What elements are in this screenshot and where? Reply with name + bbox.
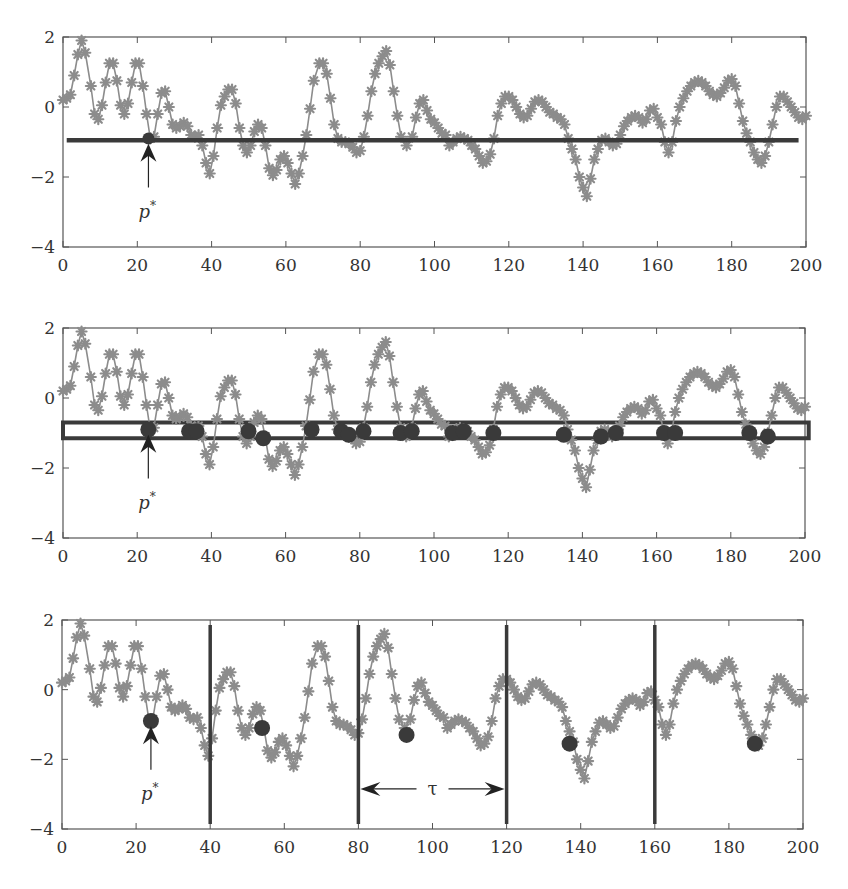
asterisk-marker — [329, 120, 339, 130]
asterisk-marker — [127, 78, 137, 88]
x-tick-label: 60 — [275, 546, 297, 566]
x-tick-label: 0 — [58, 255, 69, 275]
matched-point-marker — [556, 427, 572, 443]
matched-point-marker — [399, 727, 415, 743]
panel-3-segmented-windows: 020406080100120140160180200−4−202p*τ — [29, 610, 819, 857]
asterisk-marker — [728, 664, 738, 674]
asterisk-marker — [65, 381, 75, 391]
x-tick-label: 20 — [126, 255, 148, 275]
asterisk-marker — [153, 400, 163, 410]
asterisk-marker — [93, 405, 103, 415]
asterisk-marker — [365, 669, 375, 679]
asterisk-marker — [77, 36, 87, 46]
x-tick-label: 80 — [349, 255, 371, 275]
asterisk-marker — [76, 618, 86, 628]
asterisk-marker — [800, 402, 810, 412]
asterisk-marker — [108, 349, 118, 359]
asterisk-marker — [761, 720, 771, 730]
asterisk-marker — [394, 714, 404, 724]
asterisk-marker — [205, 169, 215, 179]
asterisk-marker — [570, 446, 580, 456]
asterisk-marker — [742, 720, 752, 730]
matched-point-marker — [304, 422, 320, 438]
asterisk-marker — [112, 76, 122, 86]
asterisk-marker — [133, 641, 143, 651]
x-tick-label: 200 — [787, 837, 819, 857]
asterisk-marker — [586, 174, 596, 184]
asterisk-marker — [134, 349, 144, 359]
x-tick-label: 180 — [713, 837, 745, 857]
matched-point-marker — [593, 429, 609, 445]
asterisk-marker — [118, 692, 128, 702]
asterisk-marker — [490, 693, 500, 703]
asterisk-marker — [587, 737, 597, 747]
x-tick-label: 60 — [275, 255, 297, 275]
plot-frame — [63, 328, 805, 538]
x-tick-label: 120 — [493, 255, 525, 275]
y-tick-label: −4 — [29, 819, 54, 839]
y-tick-label: 0 — [44, 388, 55, 408]
asterisk-marker — [388, 377, 398, 387]
asterisk-marker — [305, 395, 315, 405]
asterisk-marker — [384, 351, 394, 361]
asterisk-marker — [159, 669, 169, 679]
y-tick-label: −2 — [30, 458, 55, 478]
tau-label: τ — [428, 778, 438, 799]
asterisk-marker — [321, 360, 331, 370]
asterisk-marker — [308, 367, 318, 377]
x-tick-label: 40 — [201, 255, 223, 275]
matched-point-marker — [341, 427, 357, 443]
asterisk-marker — [363, 111, 373, 121]
figure-canvas: 020406080100120140160180200−4−202p* 0204… — [0, 0, 848, 889]
asterisk-marker — [297, 442, 307, 452]
asterisk-marker — [68, 653, 78, 663]
matched-point-marker — [189, 423, 205, 439]
y-tick-label: −4 — [30, 237, 55, 257]
asterisk-marker — [665, 720, 675, 730]
asterisk-marker — [409, 695, 419, 705]
asterisk-marker — [661, 730, 671, 740]
y-tick-label: 2 — [44, 27, 55, 47]
asterisk-marker — [565, 726, 575, 736]
asterisk-marker — [122, 681, 132, 691]
asterisk-marker — [79, 631, 89, 641]
asterisk-marker — [318, 349, 328, 359]
asterisk-marker — [123, 99, 133, 109]
matched-point-marker — [356, 423, 372, 439]
asterisk-marker — [583, 756, 593, 766]
asterisk-marker — [212, 123, 222, 133]
p-star-superscript: * — [150, 490, 156, 504]
asterisk-marker — [294, 169, 304, 179]
x-tick-label: 140 — [564, 837, 596, 857]
x-tick-label: 200 — [790, 255, 822, 275]
asterisk-marker — [327, 702, 337, 712]
matched-point-marker — [562, 736, 578, 752]
asterisk-marker — [141, 400, 151, 410]
x-tick-label: 180 — [715, 546, 747, 566]
asterisk-marker — [329, 411, 339, 421]
asterisk-marker — [361, 693, 371, 703]
asterisk-marker — [192, 713, 202, 723]
asterisk-marker — [733, 390, 743, 400]
asterisk-marker — [256, 414, 266, 424]
asterisk-marker — [362, 402, 372, 412]
asterisk-marker — [656, 120, 666, 130]
asterisk-marker — [290, 179, 300, 189]
asterisk-marker — [73, 341, 83, 351]
asterisk-marker — [318, 58, 328, 68]
x-tick-label: 80 — [349, 546, 371, 566]
asterisk-marker — [271, 456, 281, 466]
asterisk-marker — [296, 733, 306, 743]
asterisk-marker — [561, 716, 571, 726]
p-star-label: p* — [138, 490, 156, 513]
asterisk-marker — [798, 693, 808, 703]
asterisk-marker — [765, 702, 775, 712]
asterisk-marker — [69, 362, 79, 372]
asterisk-marker — [760, 151, 770, 161]
asterisk-marker — [320, 652, 330, 662]
asterisk-marker — [589, 155, 599, 165]
y-tick-label: 0 — [43, 680, 54, 700]
asterisk-marker — [140, 692, 150, 702]
asterisk-marker — [257, 123, 267, 133]
asterisk-marker — [80, 339, 90, 349]
